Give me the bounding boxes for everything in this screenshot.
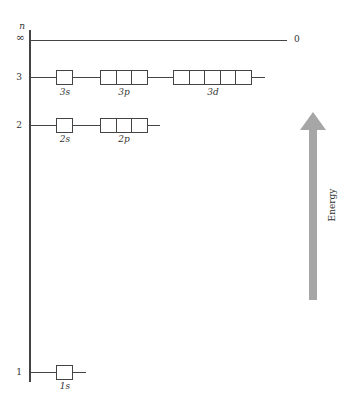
level-3-label: 3: [8, 72, 22, 82]
orbital-3s: [56, 70, 73, 85]
zero-energy-label: 0: [294, 34, 300, 44]
orbital-3d: [173, 70, 252, 85]
energy-arrow-icon: [298, 110, 328, 302]
orbital-3p-label: 3p: [104, 87, 144, 97]
level-1-label: 1: [8, 367, 22, 377]
n-axis: [29, 30, 31, 382]
orbital-1s: [56, 365, 73, 380]
level-2-label: 2: [8, 120, 22, 130]
orbital-3d-label: 3d: [193, 87, 233, 97]
orbital-3s-label: 3s: [45, 87, 85, 97]
energy-label: Energy: [327, 189, 337, 222]
infinity-label: ∞: [11, 31, 25, 44]
orbital-2s-label: 2s: [45, 134, 85, 144]
n-axis-label: n: [11, 21, 25, 31]
orbital-2p: [100, 118, 148, 133]
orbital-2s: [56, 118, 73, 133]
orbital-1s-label: 1s: [45, 381, 85, 391]
orbital-3p: [100, 70, 148, 85]
infinity-level-line: [29, 40, 287, 41]
orbital-2p-label: 2p: [104, 134, 144, 144]
